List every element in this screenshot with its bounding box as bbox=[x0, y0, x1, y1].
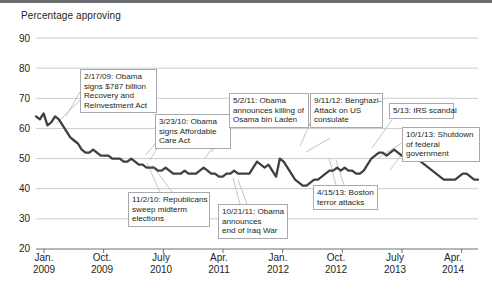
annotation-iraq-line-0: 10/21/11: Obama bbox=[222, 207, 284, 217]
x-tick-0-year: 2009 bbox=[17, 264, 71, 276]
annotation-recovery-act-line-2: Recovery and bbox=[84, 91, 153, 101]
annotation-benghazi[interactable]: 9/11/12: Benghazi- Attack on US consulat… bbox=[310, 93, 383, 128]
x-tick-5-month: Oct. bbox=[309, 252, 363, 264]
x-tick-4: Jan. 2012 bbox=[251, 252, 305, 276]
x-tick-4-month: Jan. bbox=[251, 252, 305, 264]
x-tick-4-year: 2012 bbox=[251, 264, 305, 276]
annotation-iraq-line-1: announces bbox=[222, 217, 284, 227]
annotation-bin-laden[interactable]: 5/2/11: Obama announces killing of Osama… bbox=[229, 93, 309, 128]
annotation-irs-scandal[interactable]: 5/13: IRS scandal bbox=[389, 103, 454, 119]
x-tick-6-year: 2013 bbox=[368, 264, 422, 276]
annotation-recovery-act[interactable]: 2/17/09: Obama signs $787 billion Recove… bbox=[80, 69, 157, 113]
annotation-aca-line-0: 3/23/10: Obama bbox=[159, 117, 227, 127]
annotation-benghazi-line-2: consulate bbox=[314, 115, 379, 125]
x-tick-2-year: 2010 bbox=[134, 264, 188, 276]
x-tick-2-month: July bbox=[134, 252, 188, 264]
annotation-iraq-war-end[interactable]: 10/21/11: Obama announces end of Iraq Wa… bbox=[218, 204, 288, 239]
x-tick-1-year: 2009 bbox=[75, 264, 129, 276]
x-tick-1: Oct. 2009 bbox=[75, 252, 129, 276]
annotation-aca-line-2: Care Act bbox=[159, 136, 227, 146]
x-tick-3: Apr. 2011 bbox=[192, 252, 246, 276]
annotation-midterm-line-0: 11/2/10: Republicans bbox=[132, 195, 206, 205]
annotation-aca-line-1: signs Affordable bbox=[159, 127, 227, 137]
annotation-bin-laden-line-1: announces killing of bbox=[233, 106, 305, 116]
annotation-midterm-line-1: sweep midterm bbox=[132, 205, 206, 215]
x-tick-6-month: July bbox=[368, 252, 422, 264]
annotation-bin-laden-line-0: 5/2/11: Obama bbox=[233, 96, 305, 106]
x-tick-6: July 2013 bbox=[368, 252, 422, 276]
annotation-benghazi-line-1: Attack on US bbox=[314, 106, 379, 116]
annotation-recovery-act-line-1: signs $787 billion bbox=[84, 82, 153, 92]
x-tick-3-year: 2011 bbox=[192, 264, 246, 276]
annotation-midterm-elections[interactable]: 11/2/10: Republicans sweep midterm elect… bbox=[128, 192, 210, 227]
annotation-shutdown-line-0: 10/1/13: Shutdown bbox=[406, 130, 476, 140]
annotation-shutdown-line-1: of federal bbox=[406, 140, 476, 150]
annotation-recovery-act-line-3: Reinvestment Act bbox=[84, 101, 153, 111]
annotation-midterm-line-2: elections bbox=[132, 214, 206, 224]
annotation-iraq-line-2: end of Iraq War bbox=[222, 226, 284, 236]
x-tick-5-year: 2012 bbox=[309, 264, 363, 276]
annotation-recovery-act-line-0: 2/17/09: Obama bbox=[84, 72, 153, 82]
annotation-affordable-care-act[interactable]: 3/23/10: Obama signs Affordable Care Act bbox=[155, 114, 231, 149]
annotation-boston-line-0: 4/15/13: Boston bbox=[317, 188, 374, 198]
x-tick-2: July 2010 bbox=[134, 252, 188, 276]
annotation-shutdown-line-2: government bbox=[406, 149, 476, 159]
annotation-boston-attacks[interactable]: 4/15/13: Boston terror attacks bbox=[313, 185, 378, 210]
annotation-benghazi-line-0: 9/11/12: Benghazi- bbox=[314, 96, 379, 106]
annotation-government-shutdown[interactable]: 10/1/13: Shutdown of federal government bbox=[402, 127, 480, 162]
annotation-boston-line-1: terror attacks bbox=[317, 198, 374, 208]
x-tick-0: Jan. 2009 bbox=[17, 252, 71, 276]
x-tick-1-month: Oct. bbox=[75, 252, 129, 264]
x-tick-7-month: Apr. bbox=[426, 252, 480, 264]
annotation-bin-laden-line-2: Osama bin Laden bbox=[233, 115, 305, 125]
x-tick-0-month: Jan. bbox=[17, 252, 71, 264]
x-tick-5: Oct. 2012 bbox=[309, 252, 363, 276]
approval-rating-chart: Percentage approving 90 80 70 60 50 40 3… bbox=[0, 0, 492, 303]
x-tick-7-year: 2014 bbox=[426, 264, 480, 276]
annotation-irs-line-0: 5/13: IRS scandal bbox=[393, 106, 450, 116]
x-tick-3-month: Apr. bbox=[192, 252, 246, 264]
x-tick-7: Apr. 2014 bbox=[426, 252, 480, 276]
